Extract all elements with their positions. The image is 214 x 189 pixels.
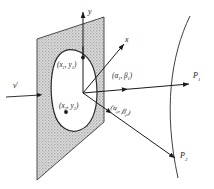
- incident-label: vi: [13, 81, 18, 90]
- paren-close: ): [76, 102, 78, 110]
- x-axis-label: x: [125, 36, 129, 44]
- label-point-x2y2: (x2, y2): [59, 103, 78, 112]
- label-p1: P1: [193, 72, 200, 83]
- p2-subscript: 2: [185, 157, 187, 162]
- label-direction-alpha1-beta1: (α1, β1): [112, 73, 132, 82]
- label-p2: P2: [180, 152, 187, 163]
- p1-subscript: 1: [198, 77, 200, 82]
- paren-close: ): [74, 61, 76, 69]
- y-axis-label: y: [88, 8, 92, 16]
- ray1-mid-arrowhead: [122, 87, 128, 92]
- aperture-plane: [37, 17, 104, 180]
- point-x1y1-marker: [81, 56, 85, 60]
- incident-i: i: [17, 80, 18, 85]
- paren-close: ): [130, 72, 132, 80]
- incident-wave-arrow: [6, 95, 40, 97]
- diffraction-diagram: y x vi (x1, y1) (x2, y2) (α1, β1) (α2, β…: [0, 0, 214, 189]
- label-point-x1y1: (x1, y1): [57, 62, 76, 71]
